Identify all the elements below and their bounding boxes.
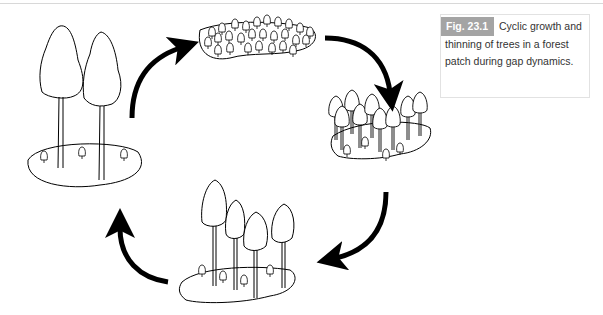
- stage-mature: [28, 26, 142, 187]
- figure-label: Fig. 23.1: [441, 17, 494, 36]
- stage-young-trees: [329, 90, 431, 161]
- stage-seedlings: [199, 15, 315, 59]
- arrow-mature-to-seedlings: [132, 48, 180, 118]
- arrow-intermediate-to-mature: [120, 228, 168, 282]
- arrow-seedlings-to-young: [325, 38, 390, 92]
- figure-caption: Fig. 23.1Cyclic growth and thinning of t…: [440, 14, 590, 98]
- arrow-young-to-intermediate: [336, 192, 386, 258]
- stage-intermediate: [179, 180, 295, 303]
